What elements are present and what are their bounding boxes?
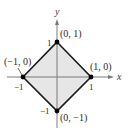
vertex-point-right — [89, 75, 94, 80]
y-axis-arrow-icon — [55, 19, 59, 25]
tick-x-pos: 1 — [89, 82, 94, 92]
tick-y-pos: 1 — [47, 38, 52, 48]
vertex-point-top — [55, 40, 60, 45]
tick-x-neg: −1 — [14, 82, 24, 92]
vertex-label-right: (1, 0) — [90, 61, 112, 73]
vertex-point-left — [21, 75, 26, 80]
vertex-point-bottom — [55, 109, 60, 114]
leader-line-left — [18, 68, 22, 75]
vertex-label-bottom: (0, −1) — [60, 112, 87, 124]
vertex-label-left: (−1, 0) — [4, 56, 31, 68]
y-axis-label: y — [54, 6, 60, 17]
x-axis-label: x — [116, 71, 122, 82]
diagram-canvas: y x 1 −1 1 −1 (0, 1) (1, 0) (0, −1) (−1,… — [0, 0, 132, 137]
x-axis-arrow-icon — [108, 75, 114, 79]
vertex-label-top: (0, 1) — [60, 28, 82, 40]
tick-y-neg: −1 — [40, 106, 50, 116]
